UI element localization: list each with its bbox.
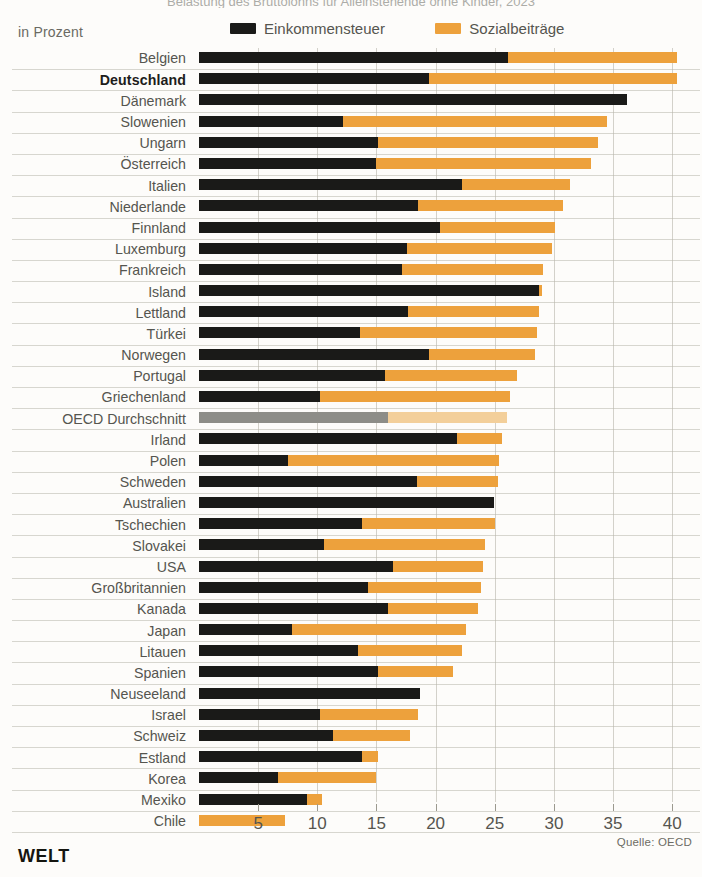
bar-segment-soc [320,709,418,720]
bar-segment-soc [418,200,564,211]
bar-segment-tax [199,497,494,508]
row-bars [199,730,702,741]
row-bars [199,222,702,233]
row-bars [199,349,702,360]
legend-label-tax: Einkommensteuer [264,20,385,37]
row-label-luxemburg: Luxemburg [0,242,186,256]
row-bars [199,433,702,444]
chart-row: USA [0,557,702,578]
bar-segment-tax [199,624,292,635]
bar-segment-tax [199,603,388,614]
chart-row: Niederlande [0,196,702,217]
bar-segment-soc [360,327,537,338]
row-bars [199,688,702,699]
chart-row: Lettland [0,302,702,323]
bar-segment-tax [199,306,408,317]
chart-row: Irland [0,429,702,450]
row-bars [199,539,702,550]
row-label-norwegen: Norwegen [0,348,186,362]
bar-segment-soc [324,539,485,550]
bar-segment-tax [199,52,508,63]
bar-segment-soc [407,243,551,254]
row-label-australien: Australien [0,496,186,510]
bar-segment-soc [358,645,462,656]
tick-mark-30 [554,804,555,811]
chart-row: Kanada [0,599,702,620]
bar-segment-tax [199,243,407,254]
chart-row: Korea [0,768,702,789]
row-bars [199,412,702,423]
bar-segment-soc [539,285,543,296]
x-tick-label-10: 10 [308,814,327,834]
bar-segment-soc [393,561,483,572]
bar-segment-tax [199,582,368,593]
bar-segment-tax [199,349,429,360]
row-label-israel: Israel [0,708,186,722]
row-label-usa: USA [0,560,186,574]
bar-segment-tax [199,327,360,338]
row-bars [199,179,702,190]
x-tick-label-40: 40 [663,814,682,834]
row-bars [199,751,702,762]
row-bars [199,370,702,381]
row-label-slowenien: Slowenien [0,115,186,129]
chart-row: Portugal [0,366,702,387]
row-bars [199,666,702,677]
chart-row: Japan [0,620,702,641]
bar-segment-tax [199,561,393,572]
bar-segment-soc [376,158,590,169]
chart-row: Dänemark [0,90,702,111]
row-label-d-nemark: Dänemark [0,94,186,108]
bar-segment-soc [388,603,478,614]
chart-row: Großbritannien [0,578,702,599]
bar-segment-tax [199,158,376,169]
bar-segment-tax [199,264,402,275]
row-label-kanada: Kanada [0,602,186,616]
row-bars [199,285,702,296]
chart-row: Australien [0,493,702,514]
chart-x-axis: 510152025303540 [0,806,702,840]
legend-label-soc: Sozialbeiträge [469,20,564,37]
chart-row: Tschechien [0,514,702,535]
row-label-finnland: Finnland [0,221,186,235]
bar-segment-tax [199,539,324,550]
bar-segment-soc [440,222,555,233]
bar-segment-soc [388,412,506,423]
bar-segment-tax [199,709,320,720]
chart-row: Luxemburg [0,239,702,260]
chart-row: Frankreich [0,260,702,281]
row-label-korea: Korea [0,772,186,786]
row-bars [199,158,702,169]
chart-row: Deutschland [0,69,702,90]
chart-row: Griechenland [0,387,702,408]
chart-row: Israel [0,705,702,726]
bar-segment-soc [343,116,607,127]
row-label-niederlande: Niederlande [0,200,186,214]
row-bars [199,709,702,720]
chart-row: Schweiz [0,726,702,747]
row-bars [199,645,702,656]
bar-segment-tax [199,476,417,487]
bar-segment-soc [307,794,322,805]
row-label-tschechien: Tschechien [0,518,186,532]
x-tick-label-30: 30 [544,814,563,834]
row-bars [199,772,702,783]
row-label-deutschland: Deutschland [0,73,186,87]
row-bars [199,200,702,211]
chart-row: Slovakei [0,535,702,556]
tick-mark-10 [317,804,318,811]
row-label-gro-britannien: Großbritannien [0,581,186,595]
row-label--sterreich: Österreich [0,157,186,171]
bar-segment-soc [288,455,500,466]
chart-rows: BelgienDeutschlandDänemarkSlowenienUngar… [0,48,702,832]
row-bars [199,327,702,338]
bar-segment-tax [199,73,429,84]
chart-row: Türkei [0,323,702,344]
row-bars [199,52,702,63]
row-label-italien: Italien [0,179,186,193]
bar-segment-soc [320,391,510,402]
bar-segment-tax [199,137,378,148]
row-label-ungarn: Ungarn [0,136,186,150]
row-label-portugal: Portugal [0,369,186,383]
bar-segment-soc [278,772,376,783]
